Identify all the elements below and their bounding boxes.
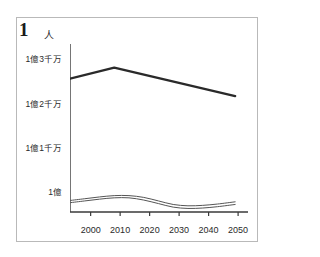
x-tick-label: 2030 [169, 226, 189, 235]
x-tick-label: 2020 [140, 226, 160, 235]
series-line-1 [70, 68, 235, 96]
x-tick-label: 2000 [81, 226, 101, 235]
x-tick-label: 2040 [199, 226, 219, 235]
series-group [70, 68, 235, 209]
axes-group [70, 44, 248, 216]
x-tick-label: 2010 [110, 226, 130, 235]
plot-area [70, 44, 250, 220]
x-tick-label: 2050 [228, 226, 248, 235]
series-line-2 [70, 195, 235, 205]
chart-canvas [70, 44, 250, 220]
